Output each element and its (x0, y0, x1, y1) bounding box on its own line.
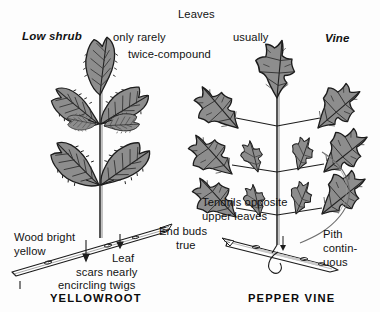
yellowroot-wood-note-line1: Wood bright (14, 231, 75, 245)
pepper-vine-leaves-qualifier: usually (233, 31, 269, 45)
yellowroot-leaf-note-line1: only rarely (113, 31, 166, 45)
yellowroot-habit-label: Low shrub (22, 30, 82, 44)
yellowroot-caption: YELLOWROOT (50, 292, 142, 304)
pepper-vine-leaves-label: Leaves (178, 8, 215, 22)
pepper-vine-pith-note-line2: contin- (323, 242, 357, 256)
yellowroot-scar-note-line1: Leaf (112, 252, 134, 266)
yellowroot-leaf-note-line2: twice-compound (128, 48, 211, 62)
yellowroot-bud-note-line2: true (176, 239, 196, 253)
pepper-vine-caption: PEPPER VINE (248, 292, 335, 304)
yellowroot-scar-note-line2: scars nearly (76, 266, 138, 280)
pepper-vine-habit-label: Vine (325, 32, 350, 46)
yellowroot-scar-note-line3: encircling twigs (58, 279, 135, 293)
yellowroot-bud-note-line1: End buds (159, 225, 207, 239)
pepper-vine-pith-note-line3: uous (323, 256, 348, 270)
pepper-vine-tendril-note-line2: upper leaves (202, 210, 267, 224)
pepper-vine-pith-note-line1: Pith (323, 228, 343, 242)
illustration-plate: Low shrub only rarely twice-compound Woo… (0, 0, 380, 312)
yellowroot-wood-note-line2: yellow (14, 245, 46, 259)
pepper-vine-tendril-note-line1: Tendrils opposite (202, 196, 288, 210)
